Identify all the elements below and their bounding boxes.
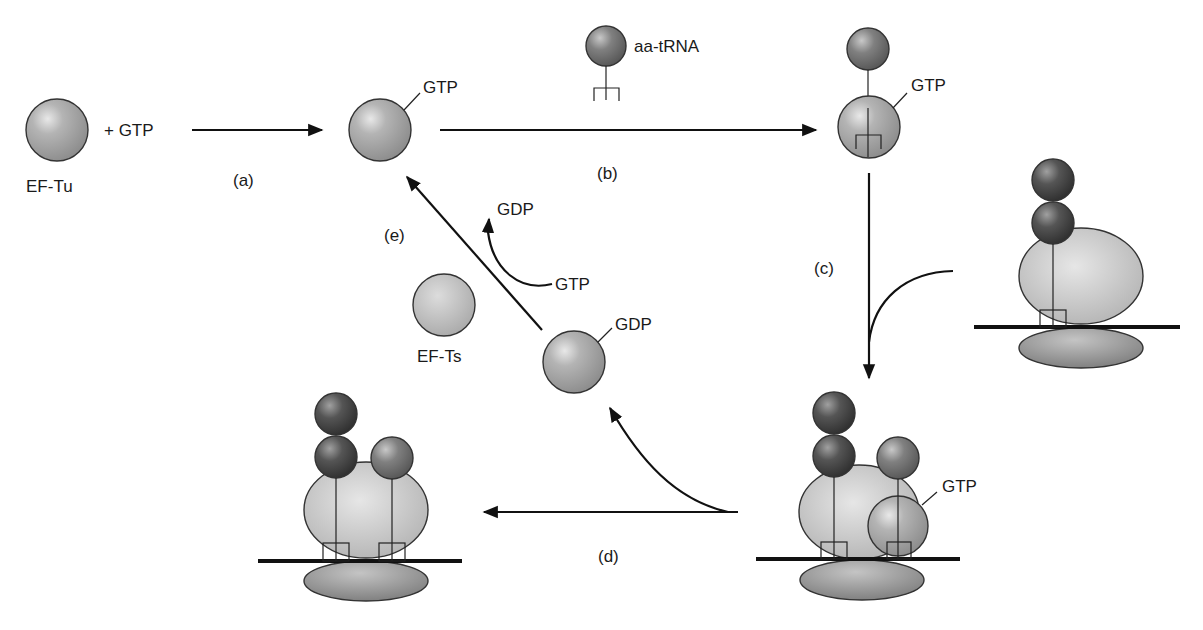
gtp-ribosome-label: GTP — [942, 477, 977, 496]
peptide-sphere-icon — [813, 392, 855, 434]
small-subunit-icon — [800, 560, 924, 600]
small-subunit-icon — [1019, 328, 1143, 368]
ef-tu-gtp-sphere-icon — [349, 99, 411, 161]
ef-tu-sphere-icon — [26, 99, 88, 161]
amino-acid-sphere-icon — [586, 26, 626, 66]
ef-tu-gdp-release-curve — [610, 408, 728, 512]
gtp-gdp-exchange-curve — [488, 219, 552, 286]
ternary-complex: GTP — [838, 28, 946, 158]
peptide-sphere-icon — [315, 393, 357, 435]
plus-gtp-label: + GTP — [104, 121, 154, 140]
gdp-released-label: GDP — [497, 200, 534, 219]
ef-ts: EF-Ts — [413, 274, 475, 366]
peptide-sphere-icon — [1032, 202, 1074, 244]
peptide-sphere-icon — [813, 435, 855, 477]
step-e-label: (e) — [384, 226, 405, 245]
ef-tu-gdp-sphere-icon — [543, 331, 605, 393]
peptide-sphere-icon — [315, 436, 357, 478]
peptide-sphere-icon — [1032, 159, 1074, 201]
ribosome-both-sites — [258, 393, 462, 601]
ef-ts-sphere-icon — [413, 274, 475, 336]
amino-acid-sphere-icon — [371, 437, 413, 479]
ribosome-p-site — [974, 159, 1180, 368]
aa-trna-label: aa-tRNA — [634, 37, 700, 56]
gdp-bound-label: GDP — [615, 315, 652, 334]
gtp-label-2: GTP — [911, 76, 946, 95]
step-a-label: (a) — [233, 171, 254, 190]
ef-tu-free: EF-Tu — [26, 99, 88, 196]
ef-tu-gtp-complex: GTP — [349, 78, 458, 161]
gtp-label-1: GTP — [423, 78, 458, 97]
step-d-label: (d) — [598, 547, 619, 566]
ef-tu-sphere-icon — [838, 96, 900, 158]
ef-tu-label: EF-Tu — [26, 177, 73, 196]
ef-ts-label: EF-Ts — [417, 347, 461, 366]
step-b-label: (b) — [597, 164, 618, 183]
aa-trna: aa-tRNA — [586, 26, 700, 101]
large-subunit-icon — [1019, 228, 1143, 324]
amino-acid-sphere-icon — [877, 437, 919, 479]
amino-acid-sphere-icon — [847, 28, 889, 70]
gtp-in-label: GTP — [555, 275, 590, 294]
ef-tu-cycle-diagram: EF-Tu + GTP (a) GTP aa-tRNA (b) GTP (c) — [0, 0, 1203, 630]
step-c-label: (c) — [814, 259, 834, 278]
ribosome-a-site-ef-tu: GTP — [756, 392, 977, 600]
ribosome-joining-curve — [869, 271, 953, 342]
ef-tu-gdp: GDP — [543, 315, 652, 393]
small-subunit-icon — [304, 561, 428, 601]
